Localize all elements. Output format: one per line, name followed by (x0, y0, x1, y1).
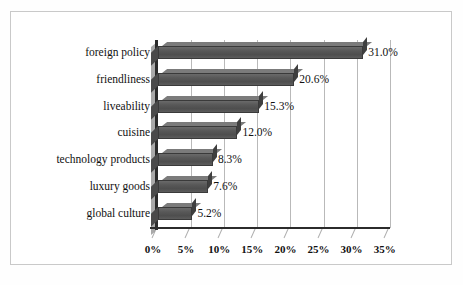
axis-tick-mark (218, 228, 223, 238)
axis-tick-mark (383, 228, 388, 238)
data-label: 5.2% (197, 207, 221, 220)
gridline (357, 40, 358, 228)
x-tick-label: 30% (335, 243, 369, 255)
bar (158, 153, 213, 166)
data-label: 20.6% (299, 73, 329, 86)
gridline (390, 40, 391, 228)
chart-page: foreign policyfriendlinessliveabilitycui… (0, 0, 463, 285)
bar (158, 46, 363, 59)
axis-tick-mark (185, 228, 190, 238)
x-tick-label: 5% (169, 243, 203, 255)
data-label: 7.6% (213, 180, 237, 193)
axis-tick-mark (284, 228, 289, 238)
data-label: 12.0% (242, 126, 272, 139)
x-tick-label: 35% (368, 243, 402, 255)
category-label: global culture (14, 207, 150, 220)
bar (158, 100, 259, 113)
data-label: 31.0% (368, 46, 398, 59)
bar (158, 180, 208, 193)
category-label: technology products (14, 153, 150, 166)
axis-tick-mark (350, 228, 355, 238)
axis-tick-mark (251, 228, 256, 238)
x-tick-label: 25% (302, 243, 336, 255)
data-label: 8.3% (218, 153, 242, 166)
axis-tick-mark (317, 228, 322, 238)
bar (158, 73, 294, 86)
value-axis-line (150, 227, 390, 229)
category-label: liveability (14, 100, 150, 113)
bar-chart: foreign policyfriendlinessliveabilitycui… (0, 0, 463, 285)
category-label: cuisine (14, 126, 150, 139)
category-label: friendliness (14, 73, 150, 86)
bar (158, 207, 192, 220)
gridline (324, 40, 325, 228)
bar (158, 126, 237, 139)
data-label: 15.3% (264, 100, 294, 113)
x-tick-label: 20% (268, 243, 302, 255)
x-tick-label: 0% (136, 243, 170, 255)
category-label: foreign policy (14, 46, 150, 59)
category-label: luxury goods (14, 180, 150, 193)
x-tick-label: 10% (202, 243, 236, 255)
x-tick-label: 15% (235, 243, 269, 255)
